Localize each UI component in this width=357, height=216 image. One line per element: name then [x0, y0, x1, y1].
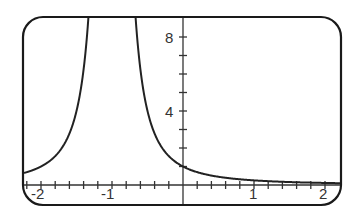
curve-left-branch [24, 18, 88, 173]
x-tick-label-2: 2 [319, 185, 327, 202]
x-tick-label-1: 1 [249, 185, 257, 202]
graph-window: -2 -1 1 2 8 4 [0, 0, 357, 216]
axes [24, 18, 340, 204]
x-tick-label-neg1: -1 [101, 185, 114, 202]
y-tick-label-8: 8 [165, 29, 173, 46]
x-tick-label-neg2: -2 [31, 185, 44, 202]
y-tick-label-4: 4 [165, 103, 173, 120]
